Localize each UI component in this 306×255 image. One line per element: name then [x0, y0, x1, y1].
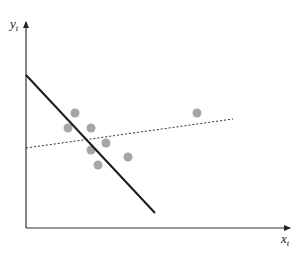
data-point: [87, 124, 96, 133]
solid-fit-line: [26, 75, 155, 213]
y-axis-label: yt: [8, 16, 19, 33]
data-point: [102, 139, 111, 148]
dotted-fit-line: [26, 119, 233, 148]
data-point: [193, 109, 202, 118]
regression-diagram: yt xt: [0, 0, 306, 255]
data-point: [124, 153, 133, 162]
data-points: [64, 109, 202, 170]
data-point: [71, 109, 80, 118]
data-point: [94, 161, 103, 170]
x-axis-label: xt: [280, 231, 290, 248]
data-point: [64, 124, 73, 133]
